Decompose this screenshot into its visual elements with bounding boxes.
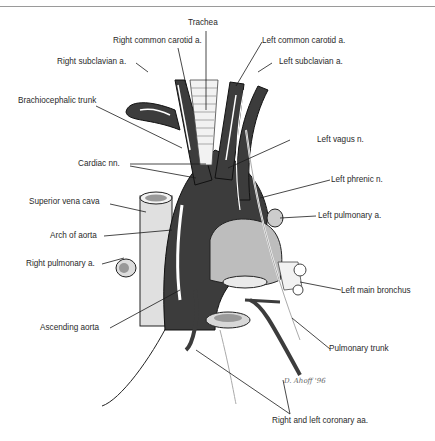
right-pulmonary-artery-shape bbox=[116, 259, 136, 277]
label-cardiac-nerves: Cardiac nn. bbox=[78, 159, 120, 169]
label-superior-vena-cava: Superior vena cava bbox=[29, 197, 100, 207]
label-left-common-carotid: Left common carotid a. bbox=[262, 36, 345, 46]
label-ascending-aorta: Ascending aorta bbox=[40, 323, 99, 333]
artist-signature: D. Ahoff '96 bbox=[284, 376, 326, 386]
label-pulmonary-trunk: Pulmonary trunk bbox=[329, 344, 389, 354]
label-left-pulmonary-a: Left pulmonary a. bbox=[318, 211, 381, 221]
label-left-main-bronchus: Left main bronchus bbox=[341, 286, 411, 296]
right-subclavian-shape bbox=[126, 103, 180, 130]
label-right-common-carotid: Right common carotid a. bbox=[113, 36, 202, 46]
label-right-pulmonary-a: Right pulmonary a. bbox=[26, 259, 95, 269]
label-left-subclavian: Left subclavian a. bbox=[279, 57, 343, 67]
label-left-vagus: Left vagus n. bbox=[317, 135, 364, 145]
label-coronary-arteries: Right and left coronary aa. bbox=[272, 416, 368, 426]
label-left-phrenic: Left phrenic n. bbox=[331, 175, 383, 185]
label-brachiocephalic-trunk: Brachiocephalic trunk bbox=[18, 96, 96, 106]
label-right-subclavian: Right subclavian a. bbox=[57, 57, 126, 67]
label-trachea: Trachea bbox=[188, 18, 218, 28]
label-arch-of-aorta: Arch of aorta bbox=[50, 231, 97, 241]
